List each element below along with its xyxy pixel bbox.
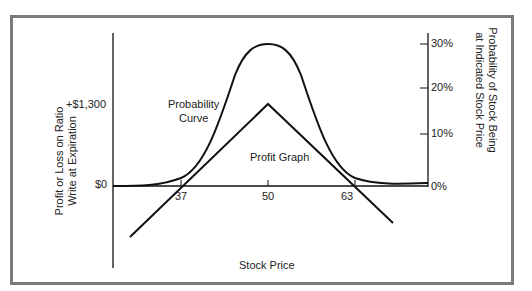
y-right-axis-title: Probability of Stock Being at Indicated … — [473, 10, 499, 170]
y-right-tick-label-0: 0% — [431, 180, 447, 192]
x-tick-label-50: 50 — [262, 190, 274, 202]
y-right-tick-label-20: 20% — [431, 81, 453, 93]
y-left-axis-title: Profit or Loss on Ratio Write at Expirat… — [53, 91, 79, 231]
y-right-tick-label-30: 30% — [431, 37, 453, 49]
x-tick-label-37: 37 — [175, 190, 187, 202]
y-left-tick-0: $0 — [95, 178, 107, 190]
x-axis-title: Stock Price — [239, 259, 295, 271]
prob-curve-label: Probability Curve — [168, 97, 219, 125]
x-tick-label-63: 63 — [341, 190, 353, 202]
profit-graph-label: Profit Graph — [250, 151, 309, 163]
y-right-tick-label-10: 10% — [431, 127, 453, 139]
probability-curve — [113, 44, 428, 186]
